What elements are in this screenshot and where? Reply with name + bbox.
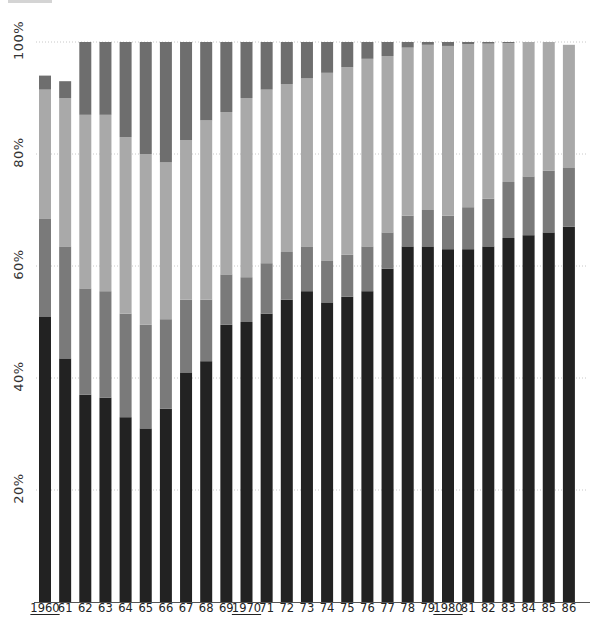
bar-segment <box>160 162 172 319</box>
y-tick-label: 20% <box>11 469 26 509</box>
x-tick-label: 74 <box>317 601 337 615</box>
bar-segment <box>462 44 474 207</box>
bar-segment <box>39 316 51 602</box>
x-tick-label: 71 <box>257 601 277 615</box>
bar-segment <box>301 246 313 291</box>
bar-segment <box>502 43 514 182</box>
bar-segment <box>59 98 71 246</box>
x-tick-label: 86 <box>559 601 579 615</box>
bar-segment <box>140 42 152 154</box>
bar-segment <box>79 115 91 289</box>
bar-segment <box>120 42 132 137</box>
bar-segment <box>241 98 253 277</box>
bar-segment <box>180 372 192 602</box>
x-tick-label: 78 <box>398 601 418 615</box>
bar-segment <box>482 199 494 247</box>
x-tick-label: 67 <box>176 601 196 615</box>
bar-segment <box>462 207 474 249</box>
bar-segment <box>543 171 555 233</box>
bar-segment <box>79 288 91 394</box>
bar-segment <box>482 246 494 602</box>
bar-segment <box>261 314 273 602</box>
bar-segment <box>442 216 454 250</box>
bar-segment <box>442 42 454 46</box>
x-tick-label: 68 <box>196 601 216 615</box>
bar-segment <box>220 274 232 324</box>
bar-segment <box>341 42 353 67</box>
y-tick-label: 40% <box>11 357 26 397</box>
bar-segment <box>241 322 253 602</box>
bar-segment <box>39 218 51 316</box>
x-tick-label: 64 <box>116 601 136 615</box>
x-tick-label: 83 <box>498 601 518 615</box>
y-tick-label: 100% <box>11 21 26 61</box>
bar-segment <box>563 227 575 602</box>
bar-segment <box>543 42 555 171</box>
bar-segment <box>482 44 494 199</box>
bar-segment <box>482 42 494 44</box>
bar-segment <box>523 235 535 602</box>
bar-segment <box>120 314 132 418</box>
bar-segment <box>59 358 71 602</box>
bar-segment <box>523 42 535 176</box>
bar-segment <box>59 81 71 98</box>
bar-segment <box>281 252 293 300</box>
bar-segment <box>39 90 51 219</box>
bar-segment <box>281 84 293 252</box>
bar-segment <box>160 409 172 602</box>
bar-segment <box>261 42 273 90</box>
bar-segment <box>563 45 575 168</box>
bar-segment <box>382 232 394 268</box>
bar-segment <box>200 42 212 120</box>
bar-segment <box>200 300 212 362</box>
x-tick-label: 82 <box>478 601 498 615</box>
bar-segment <box>341 297 353 602</box>
bar-segment <box>321 260 333 302</box>
bar-segment <box>261 90 273 264</box>
bar-segment <box>39 76 51 90</box>
bar-segment <box>361 246 373 291</box>
bar-segment <box>341 67 353 255</box>
bar-segment <box>301 42 313 78</box>
bar-segment <box>361 59 373 247</box>
y-tick-label: 80% <box>11 133 26 173</box>
bar-segment <box>59 246 71 358</box>
bar-segment <box>180 300 192 373</box>
bar-segment <box>140 428 152 602</box>
bar-segment <box>120 137 132 313</box>
bar-segment <box>341 255 353 297</box>
bar-segment <box>361 42 373 59</box>
bar-segment <box>442 249 454 602</box>
bar-segment <box>382 56 394 232</box>
x-tick-label: 65 <box>136 601 156 615</box>
bar-segment <box>79 42 91 115</box>
bar-segment <box>220 112 232 274</box>
bar-segment <box>502 238 514 602</box>
bar-segment <box>200 120 212 299</box>
bar-segment <box>402 48 414 216</box>
x-tick-label: 81 <box>458 601 478 615</box>
bar-segment <box>220 325 232 602</box>
x-tick-label: 61 <box>55 601 75 615</box>
bar-segment <box>99 42 111 115</box>
bar-segment <box>281 42 293 84</box>
bar-segment <box>261 263 273 313</box>
x-tick-label: 72 <box>277 601 297 615</box>
bar-segment <box>180 140 192 300</box>
x-tick-label: 63 <box>95 601 115 615</box>
bar-segment <box>543 232 555 602</box>
bar-segment <box>422 246 434 602</box>
bar-segment <box>442 46 454 216</box>
bar-segment <box>180 42 192 140</box>
cropped-header-text <box>8 0 52 3</box>
bar-segment <box>321 73 333 261</box>
plot-area <box>0 0 591 617</box>
x-tick-label: 66 <box>156 601 176 615</box>
bar-segment <box>140 325 152 429</box>
x-tick-label: 76 <box>357 601 377 615</box>
bar-segment <box>502 42 514 43</box>
bar-segment <box>220 42 232 112</box>
bar-segment <box>99 291 111 397</box>
bar-segment <box>402 246 414 602</box>
x-tick-label: 73 <box>297 601 317 615</box>
